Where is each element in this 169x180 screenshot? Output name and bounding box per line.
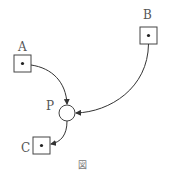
node-a xyxy=(14,55,31,72)
figure-caption: 図 xyxy=(78,161,87,170)
node-b xyxy=(140,27,157,44)
node-p xyxy=(59,105,75,121)
edge-p-to-c xyxy=(51,121,67,144)
node-c xyxy=(33,137,50,154)
label-p: P xyxy=(46,100,54,112)
edge-b-to-p xyxy=(76,44,149,113)
label-b: B xyxy=(143,9,152,21)
label-c: C xyxy=(21,142,30,154)
label-a: A xyxy=(18,41,27,53)
